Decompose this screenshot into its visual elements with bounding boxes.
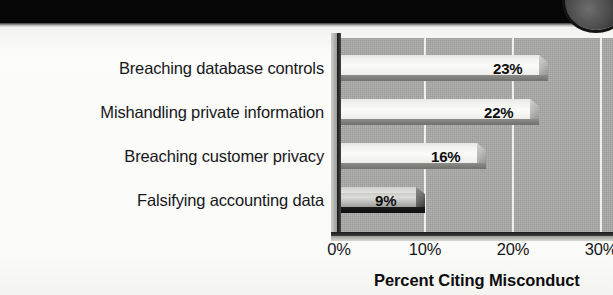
bar-value-2: 16% bbox=[431, 148, 460, 166]
x-tick-label-1: 10% bbox=[409, 241, 441, 258]
bar-3-end-cap bbox=[416, 187, 425, 207]
gridline-30 bbox=[600, 38, 602, 232]
bar-2-shadow-face bbox=[337, 163, 486, 169]
category-label-2: Breaching customer privacy bbox=[0, 148, 324, 165]
bar-1-end-cap bbox=[530, 99, 539, 119]
x-axis-bevel bbox=[331, 236, 613, 241]
x-tick-label-3: 30% bbox=[585, 241, 613, 258]
bar-value-0: 23% bbox=[493, 60, 522, 78]
x-tick-label-2: 20% bbox=[497, 241, 529, 258]
x-axis-title: Percent Citing Misconduct bbox=[374, 272, 580, 289]
category-axis-labels: Breaching database controls Mishandling … bbox=[0, 38, 330, 232]
plot-area: 23% 22% 16% 9% bbox=[337, 38, 613, 232]
x-tick-label-0: 0% bbox=[327, 241, 350, 258]
bar-2-end-cap bbox=[477, 143, 486, 163]
category-label-1: Mishandling private information bbox=[0, 104, 324, 121]
category-label-0: Breaching database controls bbox=[0, 60, 324, 77]
bar-0-end-cap bbox=[539, 55, 548, 75]
scan-edge-dark-band bbox=[0, 0, 613, 23]
category-label-3: Falsifying accounting data bbox=[0, 192, 324, 209]
bar-value-1: 22% bbox=[484, 104, 513, 122]
bar-value-3: 9% bbox=[375, 192, 396, 210]
y-axis-line bbox=[337, 33, 341, 236]
bar-2 bbox=[337, 143, 486, 169]
